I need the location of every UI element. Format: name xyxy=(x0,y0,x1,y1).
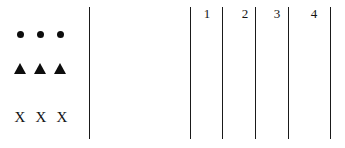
column-rule-1 xyxy=(190,7,191,139)
panel-divider xyxy=(89,7,90,139)
figure-canvas: X X X 1 2 3 4 xyxy=(0,0,345,148)
letter-x-icon: X xyxy=(15,110,26,125)
x-cell-3: X xyxy=(52,107,72,127)
column-label-1: 1 xyxy=(200,7,214,20)
column-rule-5 xyxy=(330,7,331,139)
column-rule-3 xyxy=(255,7,256,139)
column-label-2: 2 xyxy=(238,7,252,20)
triangle-cell-2 xyxy=(30,58,50,78)
letter-x-icon: X xyxy=(57,110,68,125)
x-cell-2: X xyxy=(31,107,51,127)
x-cell-1: X xyxy=(10,107,30,127)
circle-cell-2 xyxy=(30,24,50,44)
column-rule-2 xyxy=(222,7,223,139)
circle-cell-3 xyxy=(50,24,70,44)
filled-triangle-icon xyxy=(34,63,46,74)
filled-circle-icon xyxy=(57,31,64,38)
filled-circle-icon xyxy=(37,31,44,38)
column-rule-4 xyxy=(288,7,289,139)
triangle-cell-1 xyxy=(10,58,30,78)
filled-triangle-icon xyxy=(54,63,66,74)
filled-triangle-icon xyxy=(14,63,26,74)
symbol-row-triangles xyxy=(0,58,89,78)
column-label-3: 3 xyxy=(270,7,284,20)
column-label-4: 4 xyxy=(307,7,321,20)
symbol-row-circles xyxy=(0,24,89,44)
symbol-row-x: X X X xyxy=(0,107,89,127)
circle-cell-1 xyxy=(10,24,30,44)
letter-x-icon: X xyxy=(36,110,47,125)
filled-circle-icon xyxy=(17,31,24,38)
symbol-panel: X X X xyxy=(0,0,89,148)
triangle-cell-3 xyxy=(50,58,70,78)
